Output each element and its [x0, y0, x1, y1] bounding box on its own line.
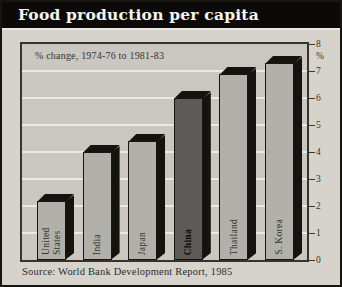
bar-side-face-united-states	[65, 195, 74, 260]
bar-label-text-thailand: Thailand	[229, 219, 240, 255]
bar-label-text-india: India	[92, 234, 103, 255]
chart-figure: Food production per capita % change, 197…	[0, 0, 342, 287]
bar-label-thailand: Thailand	[220, 219, 247, 255]
bar-label-united-states: United States	[38, 208, 65, 255]
y-tick-8	[309, 44, 315, 46]
y-tick-label-3: 3	[316, 174, 332, 185]
y-tick-label-6: 6	[316, 93, 332, 104]
y-tick-label-1: 1	[316, 228, 332, 239]
annotation-label: % change, 1974-76 to 1981-83	[35, 50, 164, 61]
bar-side-face-china	[202, 92, 211, 260]
y-tick-3	[309, 179, 315, 181]
bar-side-face-india	[111, 146, 120, 260]
y-tick-label-0: 0	[316, 255, 332, 266]
y-tick-label-4: 4	[316, 147, 332, 158]
y-tick-2	[309, 206, 315, 208]
bar-label-japan: Japan	[129, 232, 156, 255]
y-tick-label-8: 8	[316, 39, 332, 50]
title-banner: Food production per capita	[2, 2, 340, 28]
bar-japan: Japan	[128, 141, 157, 260]
bar-china: China	[174, 98, 203, 260]
bar-thailand: Thailand	[219, 74, 248, 260]
y-tick-7	[309, 71, 315, 73]
bar-india: India	[83, 152, 112, 260]
plot-area: % change, 1974-76 to 1981-83 United Stat…	[22, 44, 307, 260]
bar-side-face-s-korea	[293, 57, 302, 260]
bar-label-text-united-states: United States	[41, 208, 62, 255]
y-tick-label-2: 2	[316, 201, 332, 212]
bar-label-india: India	[84, 234, 111, 255]
bar-label-china: China	[175, 229, 202, 255]
bar-side-face-japan	[156, 135, 165, 260]
chart-title: Food production per capita	[2, 2, 340, 27]
source-note: Source: World Bank Development Report, 1…	[22, 266, 233, 277]
bar-label-text-china: China	[183, 229, 194, 255]
y-axis-unit-label: %	[316, 51, 324, 61]
y-tick-label-7: 7	[316, 66, 332, 77]
bar-label-text-japan: Japan	[137, 232, 148, 255]
bar-united-states: United States	[37, 201, 66, 260]
y-tick-0	[309, 260, 315, 262]
banner-separator	[2, 28, 340, 30]
bar-label-text-s-korea: S. Korea	[274, 219, 285, 255]
y-tick-1	[309, 233, 315, 235]
y-tick-5	[309, 125, 315, 127]
y-tick-6	[309, 98, 315, 100]
bar-s-korea: S. Korea	[265, 63, 294, 260]
bar-label-s-korea: S. Korea	[266, 219, 293, 255]
y-tick-label-5: 5	[316, 120, 332, 131]
bar-side-face-thailand	[247, 68, 256, 260]
y-tick-4	[309, 152, 315, 154]
